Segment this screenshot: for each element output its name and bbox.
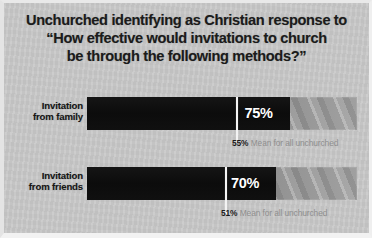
chart-panel: Unchurched identifying as Christian resp… (0, 0, 372, 238)
mean-percent-value: 51% (221, 208, 237, 218)
mean-caption-text: Mean for all unchurched (240, 208, 328, 218)
bar-row-label-line-2: from friends (8, 181, 83, 192)
bar-row: Invitation from family 75% (4, 95, 369, 129)
mean-caption-text: Mean for all unchurched (251, 138, 339, 148)
bar-row-label-line-1: Invitation (8, 170, 83, 181)
bar-row-label-line-1: Invitation (8, 100, 83, 111)
mean-percent-value: 55% (232, 138, 248, 148)
bar-track: 70% (87, 167, 357, 200)
chart-title-line-2: “How effective would invitations to chur… (4, 29, 369, 47)
bar-row-label: Invitation from friends (8, 165, 83, 193)
bar-row-label-line-2: from family (8, 111, 83, 122)
mean-tick-marker (225, 167, 227, 214)
bar-row: Invitation from friends 70% (4, 165, 369, 199)
mean-tick-marker (236, 97, 238, 144)
bar-track: 75% (87, 97, 357, 130)
mean-caption: 55% Mean for all unchurched (232, 138, 338, 148)
bar-row-label: Invitation from family (8, 95, 83, 123)
mean-caption: 51% Mean for all unchurched (221, 208, 327, 218)
bar-value-label: 75% (245, 104, 273, 122)
chart-title-line-3: be through the following methods?” (4, 47, 369, 65)
chart-title: Unchurched identifying as Christian resp… (4, 11, 369, 66)
bar-value-label: 70% (231, 174, 259, 192)
chart-title-line-1: Unchurched identifying as Christian resp… (4, 11, 369, 29)
